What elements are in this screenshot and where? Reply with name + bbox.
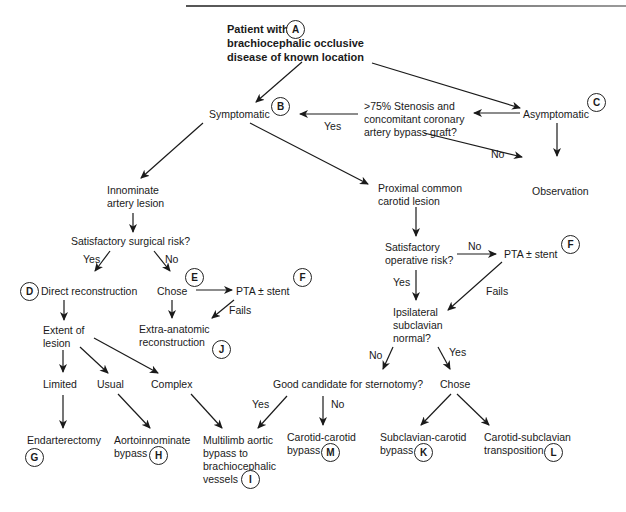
edge-label-no-stenosis: No xyxy=(491,148,504,161)
edge-label-yes-surgical: Yes xyxy=(83,253,100,266)
node-pta-left: PTA ± stent xyxy=(236,285,289,298)
badge-f-right-icon: F xyxy=(561,235,580,254)
badge-m-icon: M xyxy=(321,443,340,462)
node-ipsilateral-question: Ipsilateral subclavian normal? xyxy=(393,306,443,345)
node-observation: Observation xyxy=(532,185,589,198)
node-endarterectomy: Endarterectomy xyxy=(27,434,101,447)
edge-label-yes-sternotomy: Yes xyxy=(252,398,269,411)
node-chose-right: Chose xyxy=(440,378,470,391)
edge-label-fails-right: Fails xyxy=(486,285,508,298)
node-complex: Complex xyxy=(151,378,192,391)
node-innominate-lesion: Innominate artery lesion xyxy=(107,184,164,210)
edge-label-yes-ipsilateral: Yes xyxy=(449,346,466,359)
node-extra-anatomic: Extra-anatomic reconstruction xyxy=(139,323,210,349)
node-proximal-carotid-lesion: Proximal common carotid lesion xyxy=(378,182,462,208)
node-operative-risk-question: Satisfactory operative risk? xyxy=(385,241,453,267)
badge-j-icon: J xyxy=(212,340,231,359)
node-extent-of-lesion: Extent of lesion xyxy=(43,324,84,350)
badge-e-icon: E xyxy=(185,268,204,287)
node-asymptomatic: Asymptomatic xyxy=(523,108,589,121)
node-surgical-risk-question: Satisfactory surgical risk? xyxy=(71,235,190,248)
badge-a-icon: A xyxy=(286,20,305,39)
node-symptomatic: Symptomatic xyxy=(209,108,270,121)
node-direct-reconstruction: Direct reconstruction xyxy=(41,285,137,298)
edge-label-yes-operative: Yes xyxy=(393,276,410,289)
node-sternotomy-question: Good candidate for sternotomy? xyxy=(273,378,423,391)
badge-h-icon: H xyxy=(149,446,168,465)
edge-label-no-operative: No xyxy=(468,240,481,253)
edge-label-no-surgical: No xyxy=(165,253,178,266)
badge-c-icon: C xyxy=(587,93,606,112)
node-usual: Usual xyxy=(97,378,124,391)
edge-label-no-sternotomy: No xyxy=(331,398,344,411)
edge-label-yes-stenosis: Yes xyxy=(324,120,341,133)
badge-f-left-icon: F xyxy=(293,268,312,287)
node-pta-right: PTA ± stent xyxy=(504,248,557,261)
badge-l-icon: L xyxy=(544,443,563,462)
node-stenosis-question: >75% Stenosis and concomitant coronary a… xyxy=(364,100,464,139)
badge-k-icon: K xyxy=(414,443,433,462)
badge-b-icon: B xyxy=(271,97,290,116)
node-multilimb-bypass: Multilimb aortic bypass to brachiocephal… xyxy=(203,434,276,486)
badge-d-icon: D xyxy=(20,282,39,301)
edge-label-fails-left: Fails xyxy=(229,304,251,317)
badge-g-icon: G xyxy=(25,448,44,467)
node-chose-left: Chose xyxy=(157,285,187,298)
badge-i-icon: I xyxy=(241,470,260,489)
node-limited: Limited xyxy=(43,378,77,391)
edge-label-no-ipsilateral: No xyxy=(369,349,382,362)
